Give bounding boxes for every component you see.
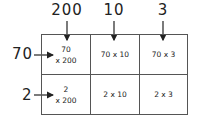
area-model-grid: 70 x 200 70 x 10 70 x 3 2 x 200 2 x 10 2… — [41, 34, 188, 115]
cell-2x200: 2 x 200 — [42, 75, 91, 114]
cell-2x3: 2 x 3 — [140, 75, 187, 114]
cell-70x200: 70 x 200 — [42, 35, 91, 75]
cell-70x3: 70 x 3 — [140, 35, 187, 75]
cell-70x10: 70 x 10 — [91, 35, 140, 75]
cell-2x10: 2 x 10 — [91, 75, 140, 114]
